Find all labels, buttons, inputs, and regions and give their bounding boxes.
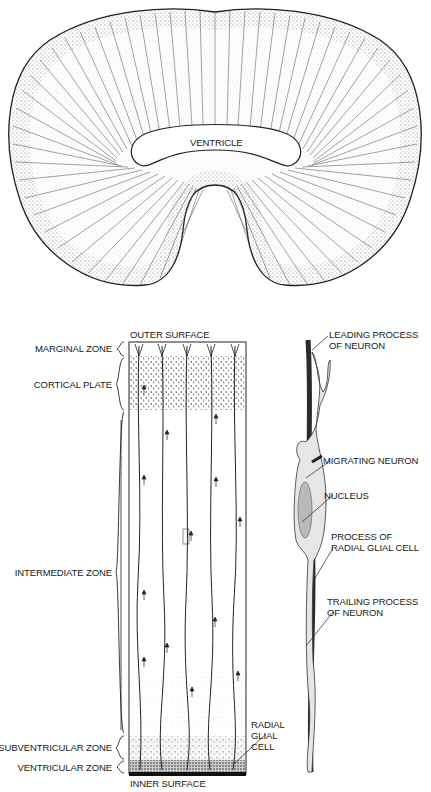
nucleus-label: NUCLEUS <box>324 490 369 501</box>
migrating-neuron-label: MIGRATING NEURON <box>323 455 418 466</box>
zone-label-marginal: MARGINAL ZONE <box>35 343 112 354</box>
ventricle-label: VENTRICLE <box>190 137 242 148</box>
trailing-process-label: TRAILING PROCESS OF NEURON <box>327 596 418 618</box>
zone-label-intermediate: INTERMEDIATE ZONE <box>15 567 112 578</box>
zone-label-subventricular: SUBVENTRICULAR ZONE <box>0 742 112 753</box>
glial-process-label: PROCESS OF RADIAL GLIAL CELL <box>331 531 419 553</box>
zone-label-ventricular: VENTRICULAR ZONE <box>18 762 112 773</box>
migrating-neuron-shape <box>294 352 330 772</box>
brain-section-drawing <box>0 0 431 300</box>
nucleus-shape <box>298 482 312 538</box>
zone-label-cortical-plate: CORTICAL PLATE <box>34 379 112 390</box>
outer-surface-label: OUTER SURFACE <box>130 329 209 340</box>
magnified-region-box <box>183 529 189 544</box>
inner-surface-label: INNER SURFACE <box>130 778 206 789</box>
radial-glial-cell-label: RADIAL GLIAL CELL <box>251 719 285 752</box>
leading-process-label: LEADING PROCESS OF NEURON <box>329 329 418 351</box>
